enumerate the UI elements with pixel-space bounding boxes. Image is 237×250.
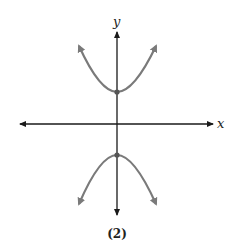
lower-vertex-point — [114, 152, 119, 157]
figure-caption: (2) — [107, 227, 127, 241]
upper-vertex-point — [114, 89, 119, 94]
x-axis-label: x — [217, 116, 225, 131]
y-axis-label: y — [112, 14, 121, 29]
graph-figure: y x (2) — [0, 0, 237, 250]
